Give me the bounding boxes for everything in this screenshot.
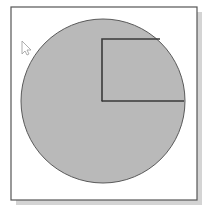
circle-center-point: [101, 100, 103, 102]
diagram-svg: [0, 0, 211, 210]
diagram-canvas: [0, 0, 211, 210]
